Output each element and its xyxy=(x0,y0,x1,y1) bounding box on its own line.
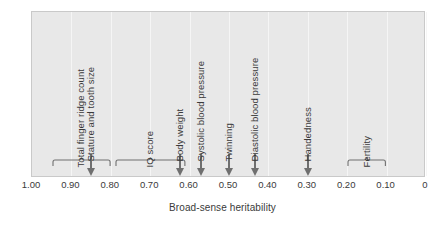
annotation-label: Fertility xyxy=(361,136,371,168)
arrow-head-icon xyxy=(251,168,259,176)
annotation-label: Handedness xyxy=(302,107,312,161)
x-tick-label: 0.80 xyxy=(101,180,120,190)
gridline xyxy=(190,12,191,176)
gridline xyxy=(347,12,348,176)
arrow-head-icon xyxy=(225,168,233,176)
annotation-label: Stature and tooth size xyxy=(86,67,96,162)
arrow-head-icon xyxy=(176,168,184,176)
x-tick-label: 0 xyxy=(422,180,427,190)
gridline xyxy=(111,12,112,176)
x-axis-title: Broad-sense heritability xyxy=(0,202,445,213)
x-tick-label: 0.10 xyxy=(376,180,395,190)
gridline xyxy=(387,12,388,176)
gridline xyxy=(426,12,427,176)
arrow-head-icon xyxy=(87,168,95,176)
x-tick-label: 0.50 xyxy=(219,180,238,190)
x-tick-label: 0.60 xyxy=(179,180,198,190)
annotation-label: IQ score xyxy=(145,131,155,168)
x-axis-ticks: 1.000.900.800.700.600.500.400.300.200.10… xyxy=(0,180,445,196)
gridline xyxy=(71,12,72,176)
arrow-head-icon xyxy=(304,168,312,176)
x-tick-label: 0.70 xyxy=(140,180,159,190)
x-tick-label: 0.40 xyxy=(258,180,277,190)
annotation-label: Body weight xyxy=(174,109,184,162)
x-tick-label: 0.90 xyxy=(61,180,80,190)
annotation-label: Twinning xyxy=(224,123,234,161)
x-tick-label: 0.20 xyxy=(337,180,356,190)
x-tick-label: 0.30 xyxy=(298,180,317,190)
annotation-label: Systolic blood pressure xyxy=(196,61,206,162)
plot-area: Total finger ridge countStature and toot… xyxy=(31,11,425,177)
arrow-head-icon xyxy=(197,168,205,176)
heritability-chart: Total finger ridge countStature and toot… xyxy=(0,0,445,227)
gridline xyxy=(268,12,269,176)
annotation-label: Diastolic blood pressure xyxy=(249,58,259,162)
x-tick-label: 1.00 xyxy=(22,180,41,190)
